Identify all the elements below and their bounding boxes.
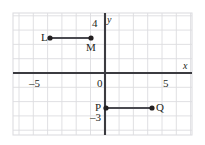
origin-label: 0 bbox=[97, 78, 103, 89]
y-axis-label: y bbox=[107, 15, 111, 25]
point-l-dot bbox=[47, 35, 52, 40]
point-q-dot bbox=[149, 105, 154, 110]
plot-svg bbox=[0, 0, 205, 145]
y-tick-label-minus3: –3 bbox=[90, 112, 101, 123]
point-p-label: P bbox=[95, 102, 101, 113]
point-l-label: L bbox=[41, 32, 48, 43]
coordinate-grid-figure: 4 –3 –5 0 5 x y L M P Q bbox=[0, 0, 205, 145]
x-tick-label-5: 5 bbox=[163, 78, 169, 89]
x-axis-label: x bbox=[183, 61, 187, 71]
point-m-label: M bbox=[86, 42, 96, 53]
point-p-dot bbox=[103, 105, 108, 110]
point-m-dot bbox=[88, 35, 93, 40]
point-q-label: Q bbox=[156, 102, 164, 113]
y-tick-label-4: 4 bbox=[92, 18, 98, 29]
x-tick-label-minus5: –5 bbox=[29, 78, 40, 89]
